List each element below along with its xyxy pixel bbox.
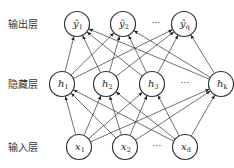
connection-arrow	[110, 96, 122, 135]
hidden-node-h1: h1	[50, 72, 75, 97]
output-ellipsis: ···	[152, 18, 161, 28]
hidden-node-hk: hk	[209, 72, 234, 97]
input-node-xd: xd	[173, 135, 198, 160]
output-node-y-hat2: ŷ2	[111, 12, 136, 37]
input-node-x2: x2	[113, 135, 138, 160]
connection-arrow	[158, 35, 178, 73]
hidden-ellipsis: ···	[181, 78, 190, 88]
connection-arrow	[90, 89, 209, 142]
input-layer-label: 输入层	[8, 141, 38, 153]
output-node-y-hat1: ŷ1	[65, 12, 90, 37]
connection-arrow	[65, 37, 74, 72]
connection-arrow	[158, 96, 179, 136]
hidden-layer-label: 隐藏层	[8, 79, 38, 90]
input-ellipsis: ···	[153, 141, 162, 151]
neural-network-diagram: ŷ1ŷ2ŷq···h1h2h3hk···x1x2xd··· 输出层 隐藏层 输入…	[0, 0, 234, 168]
neurons: ŷ1ŷ2ŷq···h1h2h3hk···x1x2xd···	[50, 12, 234, 160]
connection-arrow	[83, 36, 101, 73]
output-node-y-hatq: ŷq	[172, 12, 197, 37]
input-node-x1: x1	[67, 135, 92, 160]
connection-arrow	[130, 96, 147, 136]
connection-arrow	[65, 97, 75, 135]
hidden-node-h2: h2	[94, 72, 119, 97]
connection-arrow	[135, 91, 210, 140]
connection-arrow	[87, 32, 142, 76]
output-layer-label: 输出层	[8, 18, 38, 30]
connection-arrow	[84, 96, 101, 136]
hidden-node-h3: h3	[140, 72, 165, 97]
